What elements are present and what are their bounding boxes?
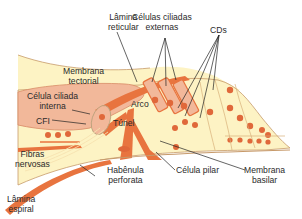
label-celula-pilar: Célula pilar bbox=[176, 165, 219, 175]
label-celulas-ciliadas-externas: Células ciliadas externas bbox=[132, 12, 192, 32]
label-celula-ciliada-interna: Célula ciliada interna bbox=[27, 91, 78, 111]
label-habenula-perforata: Habênula perforata bbox=[107, 165, 144, 185]
label-membrana-tectorial: Membrana tectorial bbox=[63, 66, 104, 86]
label-tunel: Túnel bbox=[113, 118, 135, 128]
label-cds: CDs bbox=[210, 25, 227, 35]
label-cfi: CFI bbox=[36, 116, 50, 126]
label-lamina-espiral: Lâmina espiral bbox=[7, 194, 35, 214]
label-fibras-nervosas: Fibras nervosas bbox=[15, 149, 50, 169]
label-arco: Arco bbox=[131, 99, 149, 109]
label-membrana-basilar: Membrana basilar bbox=[244, 165, 285, 185]
